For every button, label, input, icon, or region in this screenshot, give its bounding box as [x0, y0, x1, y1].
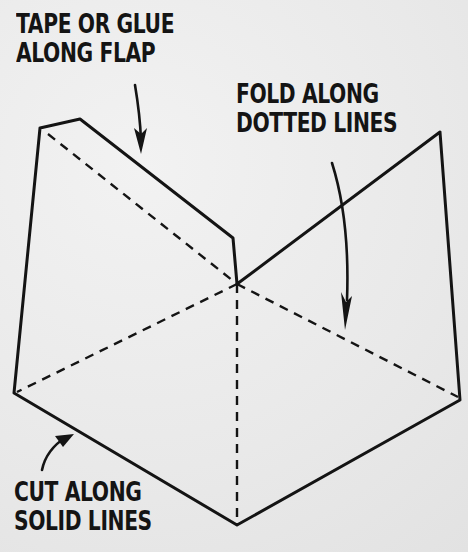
fold-label: FOLD ALONG DOTTED LINES — [236, 80, 397, 138]
fold-diagram — [0, 0, 468, 552]
tape-label-line2: ALONG FLAP — [16, 39, 174, 68]
tape-label-line1: TAPE OR GLUE — [16, 10, 174, 39]
cut-label-line1: CUT ALONG — [14, 478, 152, 507]
cut-arrow-icon — [42, 434, 74, 470]
tape-arrow-icon — [134, 85, 147, 154]
fold-line-top-left — [48, 134, 237, 284]
fold-arrow-icon — [332, 163, 352, 330]
cut-label: CUT ALONG SOLID LINES — [14, 478, 152, 536]
fold-label-line2: DOTTED LINES — [236, 109, 397, 138]
cut-label-line2: SOLID LINES — [14, 507, 152, 536]
fold-line-bottom-left — [17, 284, 237, 392]
dotted-fold-lines — [17, 134, 458, 522]
fold-label-line1: FOLD ALONG — [236, 80, 397, 109]
tape-label: TAPE OR GLUE ALONG FLAP — [16, 10, 174, 68]
